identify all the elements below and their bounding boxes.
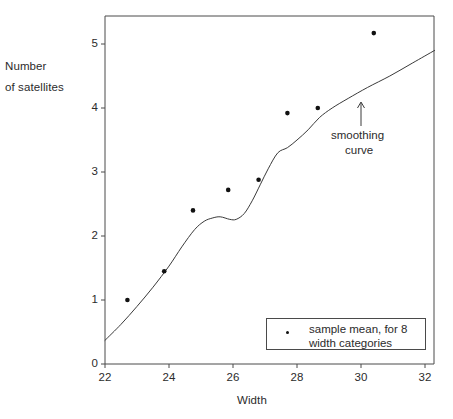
- annotation-label-line1: smoothing: [331, 129, 384, 141]
- annotation-arrow: [358, 102, 365, 126]
- data-point: [285, 111, 290, 116]
- data-point: [162, 269, 167, 274]
- y-axis-ticks: [101, 44, 105, 364]
- y-tick-label-3: 3: [82, 165, 98, 177]
- y-tick-label-4: 4: [82, 101, 98, 113]
- x-tick-label-22: 22: [93, 371, 117, 383]
- y-tick-label-2: 2: [82, 229, 98, 241]
- smoothing-curve-line: [105, 50, 435, 340]
- x-tick-label-24: 24: [157, 371, 181, 383]
- data-point: [191, 208, 196, 213]
- data-point: [256, 177, 261, 182]
- data-point: [125, 298, 130, 303]
- y-tick-label-5: 5: [82, 37, 98, 49]
- x-tick-label-26: 26: [221, 371, 245, 383]
- x-tick-label-32: 32: [413, 371, 437, 383]
- plot-frame: [105, 16, 434, 364]
- y-axis-title-line2: of satellites: [5, 81, 64, 93]
- legend-label-line2: width categories: [309, 337, 392, 349]
- data-point: [372, 31, 377, 36]
- x-axis-title: Width: [237, 394, 267, 406]
- y-tick-label-0: 0: [82, 357, 98, 369]
- x-tick-label-28: 28: [285, 371, 309, 383]
- chart-figure: Number of satellites Width 0 1 2 3 4 5 2…: [0, 0, 453, 419]
- y-tick-label-1: 1: [82, 293, 98, 305]
- y-axis-title-line1: Number: [5, 60, 47, 72]
- data-point: [226, 188, 231, 193]
- data-point-group: [125, 31, 376, 302]
- data-point: [316, 106, 321, 111]
- x-axis-ticks: [105, 364, 425, 368]
- annotation-label-line2: curve: [345, 144, 373, 156]
- plot-area: [0, 0, 453, 419]
- x-tick-label-30: 30: [349, 371, 373, 383]
- legend-label-line1: sample mean, for 8: [309, 323, 407, 335]
